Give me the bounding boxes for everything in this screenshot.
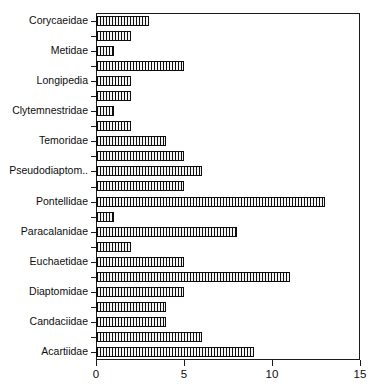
y-axis-tick: [91, 66, 96, 67]
y-axis-tick: [91, 322, 96, 323]
bar-row: [96, 254, 360, 269]
bar: [96, 121, 131, 131]
y-axis-category-label: Clytemnestridae: [12, 105, 88, 116]
bars-container: [96, 13, 360, 360]
bar: [96, 287, 184, 297]
y-axis-tick: [91, 232, 96, 233]
bar: [96, 227, 237, 237]
bar-row: [96, 43, 360, 58]
y-axis-tick: [91, 171, 96, 172]
y-axis-tick: [91, 51, 96, 52]
bar: [96, 197, 325, 207]
bar: [96, 106, 114, 116]
x-axis-tick: [360, 360, 361, 366]
bar-row: [96, 345, 360, 360]
bar-row: [96, 134, 360, 149]
bar: [96, 272, 290, 282]
bar-row: [96, 209, 360, 224]
bar-row: [96, 13, 360, 28]
bar-row: [96, 73, 360, 88]
bar: [96, 46, 114, 56]
y-axis-tick: [91, 126, 96, 127]
bar: [96, 136, 166, 146]
bar-row: [96, 179, 360, 194]
x-axis-tick-label: 10: [266, 368, 279, 380]
bar: [96, 242, 131, 252]
y-axis-category-label: Metidae: [51, 45, 88, 56]
bar-row: [96, 104, 360, 119]
y-axis-tick: [91, 202, 96, 203]
y-axis-tick: [91, 247, 96, 248]
bar: [96, 212, 114, 222]
y-axis-tick: [91, 81, 96, 82]
y-axis-category-label: Candaciidae: [30, 316, 88, 327]
y-axis-category-label: Diaptomidae: [29, 286, 88, 297]
bar-row: [96, 149, 360, 164]
y-axis-tick: [91, 21, 96, 22]
y-axis-category-label: Euchaetidae: [30, 256, 88, 267]
x-axis-tick: [272, 360, 273, 366]
bar-row: [96, 224, 360, 239]
y-axis-tick: [91, 141, 96, 142]
bar: [96, 91, 131, 101]
bar: [96, 302, 166, 312]
bar: [96, 317, 166, 327]
bar: [96, 181, 184, 191]
bar: [96, 151, 184, 161]
y-axis-tick: [91, 292, 96, 293]
y-axis-tick: [91, 262, 96, 263]
y-axis-tick: [91, 307, 96, 308]
y-axis-category-label: Pseudodiaptom..: [9, 165, 88, 176]
bar-row: [96, 88, 360, 103]
bar: [96, 332, 202, 342]
y-axis-category-label: Longipedia: [37, 75, 88, 86]
y-axis-category-label: Temoridae: [39, 135, 88, 146]
x-axis-tick-label: 0: [93, 368, 99, 380]
bar-row: [96, 28, 360, 43]
y-axis-category-label: Pontellidae: [36, 196, 88, 207]
bar: [96, 347, 254, 357]
y-axis-category-label: Corycaeidae: [29, 15, 88, 26]
bar: [96, 166, 202, 176]
bar-row: [96, 164, 360, 179]
y-axis-category-label: Paracalanidae: [21, 226, 88, 237]
bar-chart: CorycaeidaeMetidaeLongipediaClytemnestri…: [0, 0, 378, 391]
bar-row: [96, 285, 360, 300]
x-axis-tick: [96, 360, 97, 366]
bar: [96, 31, 131, 41]
bar-row: [96, 315, 360, 330]
bar-row: [96, 119, 360, 134]
bar: [96, 16, 149, 26]
bar: [96, 76, 131, 86]
x-axis-tick-label: 15: [354, 368, 367, 380]
bar-row: [96, 300, 360, 315]
y-axis-tick: [91, 187, 96, 188]
bar: [96, 257, 184, 267]
y-axis-tick: [91, 352, 96, 353]
bar-row: [96, 269, 360, 284]
bar: [96, 61, 184, 71]
y-axis-tick: [91, 337, 96, 338]
y-axis-tick: [91, 156, 96, 157]
bar-row: [96, 330, 360, 345]
x-axis-tick-label: 5: [181, 368, 187, 380]
y-axis-tick: [91, 96, 96, 97]
y-axis-tick: [91, 36, 96, 37]
x-axis-tick: [184, 360, 185, 366]
bar-row: [96, 194, 360, 209]
bar-row: [96, 239, 360, 254]
y-axis-tick: [91, 277, 96, 278]
y-axis-tick: [91, 217, 96, 218]
bar-row: [96, 58, 360, 73]
y-axis-tick: [91, 111, 96, 112]
y-axis-category-label: Acartiidae: [41, 346, 88, 357]
